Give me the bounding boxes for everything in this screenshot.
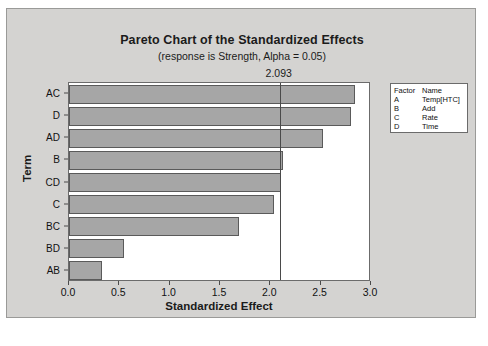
bar-cd [69,173,281,192]
legend-factor-code: A [394,95,422,104]
x-tick-mark [169,281,170,285]
x-tick-label-0-0: 0.0 [61,286,76,298]
legend-factor-name: Temp[HTC] [422,95,464,104]
bar-c [69,195,274,214]
legend-factor-code: B [394,104,422,113]
chart-subtitle: (response is Strength, Alpha = 0.05) [7,50,477,62]
bar-bc [69,217,239,236]
x-tick-mark [320,281,321,285]
legend-rows: ATemp[HTC]BAddCRateDTime [394,95,464,131]
y-tick-label-ad: AD [46,132,60,143]
legend-factor-code: C [394,113,422,122]
x-tick-label-0-5: 0.5 [111,286,126,298]
y-tick-label-bc: BC [46,220,60,231]
y-tick-label-c: C [53,198,60,209]
bar-ab [69,261,102,280]
bar-d [69,107,351,126]
reference-line-label: 2.093 [266,67,292,79]
bar-b [69,151,283,170]
screenshot-root: Pareto Chart of the Standardized Effects… [0,0,488,346]
bar-ad [69,129,323,148]
legend-factor-code: D [394,122,422,131]
x-tick-mark [269,281,270,285]
legend-factor-name: Rate [422,113,464,122]
bar-ac [69,85,355,104]
x-axis-title: Standardized Effect [68,300,370,312]
legend-header-factor: Factor [394,86,422,95]
plot-area [68,82,370,281]
x-tick-mark [68,281,69,285]
y-axis-title: Term [21,155,33,182]
chart-title: Pareto Chart of the Standardized Effects [7,33,477,47]
x-tick-label-1-0: 1.0 [161,286,176,298]
legend-row-a: ATemp[HTC] [394,95,464,104]
x-tick-mark [118,281,119,285]
legend-header-name: Name [422,86,464,95]
graph-window: Pareto Chart of the Standardized Effects… [6,8,476,318]
y-tick-label-ab: AB [47,264,60,275]
bar-bd [69,239,124,258]
y-tick-label-d: D [53,110,60,121]
x-tick-label-2-0: 2.0 [262,286,277,298]
reference-line [280,83,281,280]
y-tick-label-ac: AC [46,88,60,99]
legend-row-d: DTime [394,122,464,131]
x-tick-mark [219,281,220,285]
legend-header-row: Factor Name [394,86,464,95]
factor-legend: Factor Name ATemp[HTC]BAddCRateDTime [390,83,468,133]
legend-row-b: BAdd [394,104,464,113]
x-tick-label-3-0: 3.0 [363,286,378,298]
y-tick-label-cd: CD [46,176,60,187]
legend-row-c: CRate [394,113,464,122]
x-tick-label-1-5: 1.5 [212,286,227,298]
y-tick-label-bd: BD [46,242,60,253]
legend-factor-name: Add [422,104,464,113]
y-tick-label-b: B [53,154,60,165]
x-tick-mark [370,281,371,285]
bar-series [69,83,369,280]
x-tick-label-2-5: 2.5 [312,286,327,298]
legend-factor-name: Time [422,122,464,131]
